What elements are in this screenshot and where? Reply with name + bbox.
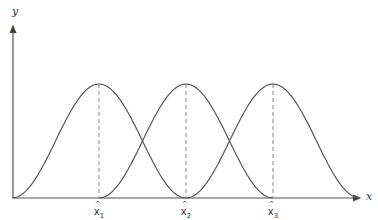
center-label-1: x1: [89, 207, 109, 220]
center-label-2-base: x: [181, 207, 187, 217]
center-label-3-base: x: [268, 207, 274, 217]
center-label-2-sub: 2: [187, 212, 191, 220]
diagram-canvas: [0, 0, 378, 220]
center-dashed-lines: [99, 84, 273, 198]
center-label-1-base: x: [94, 207, 100, 217]
x-axis-label: x: [366, 191, 372, 202]
y-axis-label: y: [12, 6, 18, 17]
center-label-3: x3: [263, 207, 283, 220]
center-label-3-sub: 3: [274, 212, 278, 220]
center-label-2: x2: [176, 207, 196, 220]
center-label-1-sub: 1: [100, 212, 104, 220]
